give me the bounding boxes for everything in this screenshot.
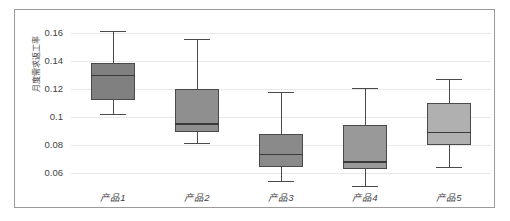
upper-whisker-line bbox=[449, 79, 450, 103]
min-cap bbox=[436, 167, 462, 168]
x-tick-label: 产品2 bbox=[157, 190, 237, 204]
boxplot-5 bbox=[71, 22, 491, 187]
y-tick-label: 0.06 bbox=[45, 168, 64, 178]
y-tick-label: 0.1 bbox=[50, 112, 63, 122]
y-tick-label: 0.14 bbox=[45, 56, 64, 66]
plot-area bbox=[71, 22, 491, 187]
max-cap bbox=[436, 79, 462, 80]
chart-frame: 月度需求返工率 0.060.080.10.120.140.16 产品1产品2产品… bbox=[14, 9, 495, 208]
y-axis-tick-labels: 0.060.080.10.120.140.16 bbox=[15, 22, 67, 187]
x-tick-label: 产品5 bbox=[409, 190, 489, 204]
box-iqr bbox=[427, 103, 471, 145]
x-tick-label: 产品3 bbox=[241, 190, 321, 204]
y-tick-label: 0.16 bbox=[45, 28, 64, 38]
x-tick-label: 产品1 bbox=[73, 190, 153, 204]
x-axis-tick-labels: 产品1产品2产品3产品4产品5 bbox=[71, 190, 491, 206]
y-tick-label: 0.08 bbox=[45, 140, 64, 150]
median-line bbox=[427, 132, 471, 134]
lower-whisker-line bbox=[449, 145, 450, 167]
x-tick-label: 产品4 bbox=[325, 190, 405, 204]
y-tick-label: 0.12 bbox=[45, 84, 64, 94]
